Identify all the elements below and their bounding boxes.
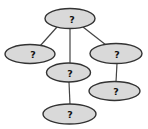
node-left: ? [5, 45, 55, 64]
node-right-child: ? [89, 82, 140, 101]
node-label-right: ? [114, 49, 120, 60]
diagram-canvas: ?????? [0, 0, 148, 129]
edge-root-to-left [40, 27, 57, 46]
edge-middle-to-middle-child [69, 82, 70, 105]
node-label-root: ? [69, 14, 75, 25]
edge-root-to-right [83, 27, 106, 45]
node-label-right-child: ? [113, 86, 119, 97]
node-label-middle: ? [67, 68, 73, 79]
tree-diagram: ?????? [0, 0, 148, 129]
node-root: ? [45, 9, 95, 29]
node-middle-child: ? [43, 104, 96, 124]
node-middle: ? [47, 63, 91, 82]
node-right: ? [90, 44, 142, 64]
edge-right-to-right-child [116, 64, 117, 83]
node-label-left: ? [30, 49, 36, 60]
node-label-middle-child: ? [67, 109, 73, 120]
